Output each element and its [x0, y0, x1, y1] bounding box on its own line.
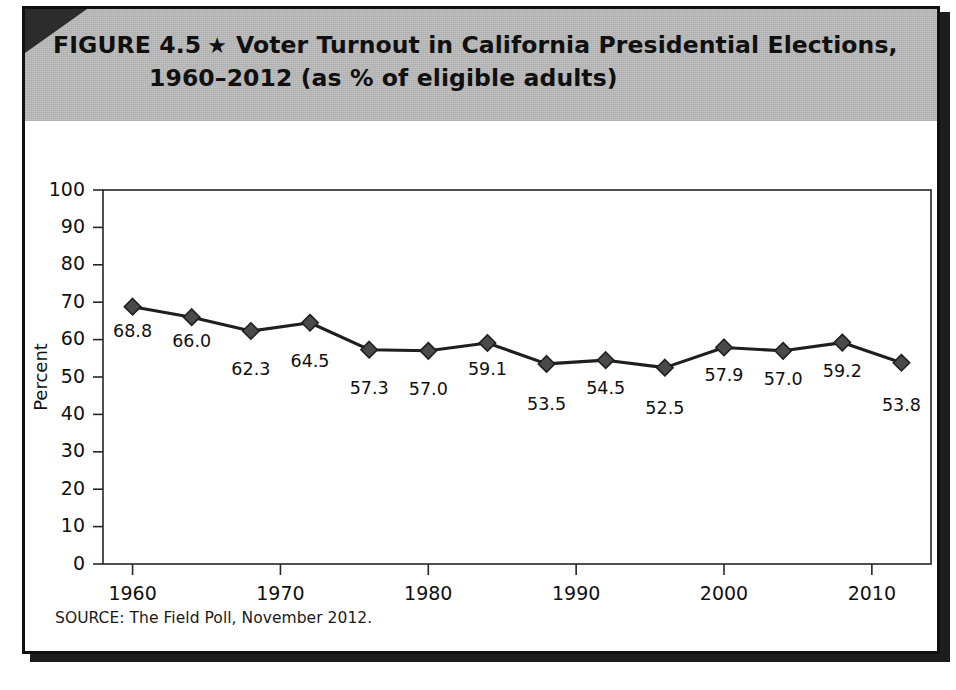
data-point-label: 68.8: [113, 321, 152, 341]
y-axis-title: Percent: [30, 343, 51, 411]
data-point-label: 57.0: [764, 369, 803, 389]
figure-card: FIGURE 4.5★Voter Turnout in California P…: [22, 6, 940, 654]
figure-title-line-1: FIGURE 4.5★Voter Turnout in California P…: [53, 29, 897, 62]
data-point-marker: [361, 341, 377, 357]
figure-title: FIGURE 4.5★Voter Turnout in California P…: [53, 29, 897, 96]
plot-frame-border: [103, 190, 931, 564]
data-point-label: 66.0: [172, 331, 211, 351]
figure-title-line-2: 1960–2012 (as % of eligible adults): [53, 62, 897, 95]
data-point-marker: [657, 359, 673, 375]
x-tick-label: 1980: [404, 582, 452, 604]
y-tick-label: 10: [61, 514, 85, 536]
figure-title-text-1: Voter Turnout in California Presidential…: [236, 31, 898, 59]
data-point-label: 52.5: [645, 398, 684, 418]
data-point-marker: [243, 323, 259, 339]
x-tick-label: 2010: [848, 582, 896, 604]
data-point-marker: [834, 334, 850, 350]
chart-plot-area: 0102030405060708090100 19601970198019902…: [25, 121, 937, 651]
data-point-marker: [775, 343, 791, 359]
source-note: SOURCE: The Field Poll, November 2012.: [55, 609, 372, 627]
star-icon: ★: [201, 35, 236, 57]
data-point-label: 57.0: [409, 379, 448, 399]
line-chart: 0102030405060708090100 19601970198019902…: [25, 121, 937, 651]
data-point-label: 54.5: [586, 378, 625, 398]
data-point-label: 53.8: [882, 395, 921, 415]
data-point-label: 53.5: [527, 394, 566, 414]
data-point-marker: [124, 298, 140, 314]
y-tick-label: 60: [61, 327, 85, 349]
y-tick-label: 50: [61, 365, 85, 387]
x-tick-label: 1970: [256, 582, 304, 604]
y-axis-ticks: 0102030405060708090100: [49, 178, 103, 574]
figure-root: FIGURE 4.5★Voter Turnout in California P…: [0, 0, 956, 690]
data-point-label: 59.1: [468, 359, 507, 379]
x-tick-label: 1960: [108, 582, 156, 604]
y-tick-label: 80: [61, 252, 85, 274]
data-point-marker: [716, 339, 732, 355]
data-point-marker: [420, 343, 436, 359]
data-point-label: 62.3: [231, 359, 270, 379]
y-tick-label: 70: [61, 290, 85, 312]
data-point-label: 64.5: [291, 351, 330, 371]
data-point-marker: [184, 309, 200, 325]
y-tick-label: 0: [73, 552, 85, 574]
y-tick-label: 20: [61, 477, 85, 499]
data-point-labels: 68.866.062.364.557.357.059.153.554.552.5…: [113, 321, 921, 418]
data-point-marker: [598, 352, 614, 368]
figure-title-banner: FIGURE 4.5★Voter Turnout in California P…: [25, 9, 937, 121]
data-point-marker: [893, 355, 909, 371]
y-tick-label: 90: [61, 215, 85, 237]
data-point-label: 57.9: [705, 365, 744, 385]
y-tick-label: 30: [61, 439, 85, 461]
data-point-label: 57.3: [350, 378, 389, 398]
data-point-marker: [538, 356, 554, 372]
y-tick-label: 100: [49, 178, 85, 200]
x-axis-ticks: 196019701980199020002010: [108, 564, 896, 604]
x-tick-label: 2000: [700, 582, 748, 604]
data-point-marker: [479, 335, 495, 351]
data-point-marker: [302, 315, 318, 331]
y-tick-label: 40: [61, 402, 85, 424]
figure-number: FIGURE 4.5: [53, 31, 201, 59]
x-tick-label: 1990: [552, 582, 600, 604]
data-point-label: 59.2: [823, 361, 862, 381]
